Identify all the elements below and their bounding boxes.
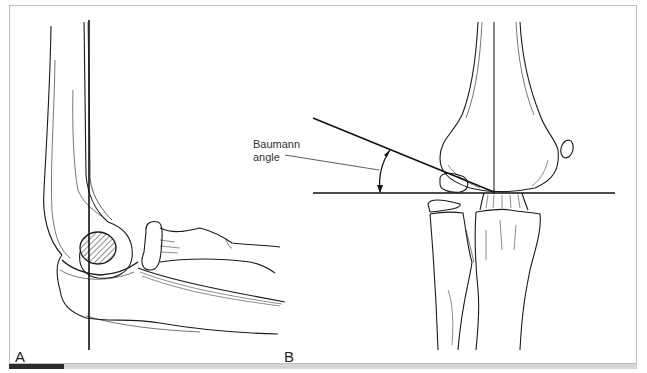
baumann-line: [313, 118, 494, 192]
panel-a-label: A: [15, 348, 25, 365]
bottom-rule: [9, 364, 637, 369]
elbow-illustration: [0, 0, 647, 373]
callout-line-1: Baumann: [253, 138, 300, 151]
bottom-rule-accent: [9, 364, 64, 369]
baumann-angle-label: Baumann angle: [253, 138, 300, 164]
panel-b-label: B: [284, 348, 294, 365]
panel-b-drawing: [428, 22, 575, 350]
panel-a-drawing: [44, 22, 285, 334]
callout-line-2: angle: [253, 151, 300, 164]
arrowhead-top: [384, 150, 390, 157]
arrowhead-bottom: [377, 185, 383, 193]
